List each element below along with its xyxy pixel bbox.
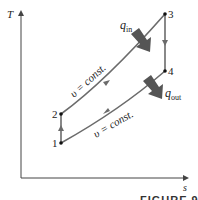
heat-in-subscript: in xyxy=(126,25,132,34)
point-4-label: 4 xyxy=(168,65,174,77)
arrow-down-icon xyxy=(162,40,168,46)
point-2-label: 2 xyxy=(52,108,58,120)
arrow-along-icon xyxy=(103,80,110,86)
lower-process-label: υ = const. xyxy=(91,107,135,139)
heat-out-subscript: out xyxy=(171,93,182,102)
x-axis-label: s xyxy=(183,182,187,193)
point-1-label: 1 xyxy=(52,137,58,149)
point-2 xyxy=(59,112,63,116)
t-s-diagram: T s 1 2 3 4 υ = const. υ = const. qin qo… xyxy=(0,0,198,200)
point-4 xyxy=(163,69,167,73)
point-3 xyxy=(163,12,167,16)
point-1 xyxy=(59,141,63,145)
arrow-up-icon xyxy=(58,125,64,131)
point-3-label: 3 xyxy=(168,8,174,20)
heat-in-label: qin xyxy=(120,18,132,34)
heat-out-label: qout xyxy=(165,86,182,102)
y-axis-label: T xyxy=(7,8,14,20)
figure-caption: FIGURE 9–15 xyxy=(140,194,198,200)
process-2-3 xyxy=(61,14,165,114)
